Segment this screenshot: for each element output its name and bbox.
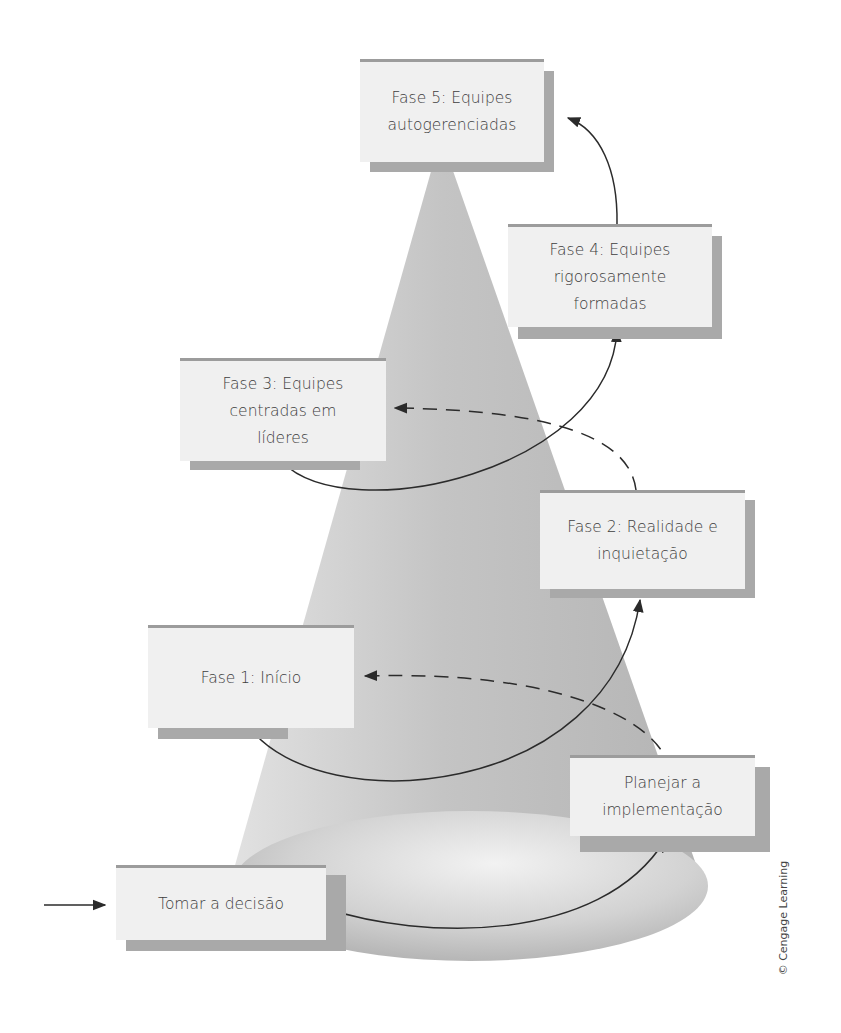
stage-plan: Planejar a implementação bbox=[570, 755, 770, 855]
copyright-credit: © Cengage Learning bbox=[777, 861, 790, 976]
stage-phase1: Fase 1: Início bbox=[148, 625, 358, 740]
stage-phase3-line-1: Fase 3: Equipes bbox=[223, 371, 344, 398]
stage-phase3-line-3: líderes bbox=[223, 425, 344, 452]
stage-phase4-line-1: Fase 4: Equipes bbox=[550, 237, 671, 264]
stage-phase5: Fase 5: Equipes autogerenciadas bbox=[360, 59, 560, 174]
stage-phase3: Fase 3: Equipes centradas em líderes bbox=[180, 358, 390, 470]
stage-plan-line-1: Planejar a bbox=[602, 770, 723, 797]
stage-phase2: Fase 2: Realidade e inquietação bbox=[540, 490, 755, 600]
stage-phase2-line-1: Fase 2: Realidade e bbox=[567, 514, 717, 541]
stage-phase4-line-3: formadas bbox=[550, 291, 671, 318]
team-phases-diagram: Tomar a decisão Planejar a implementação… bbox=[0, 0, 841, 1033]
stage-phase5-line-2: autogerenciadas bbox=[388, 112, 517, 139]
stage-phase4: Fase 4: Equipes rigorosamente formadas bbox=[508, 224, 723, 339]
stage-phase1-line-1: Fase 1: Início bbox=[201, 665, 302, 692]
stage-phase3-line-2: centradas em bbox=[223, 398, 344, 425]
stage-decide-line-1: Tomar a decisão bbox=[158, 891, 284, 918]
stage-phase5-line-1: Fase 5: Equipes bbox=[388, 85, 517, 112]
stage-phase2-line-2: inquietação bbox=[567, 541, 717, 568]
stage-phase4-line-2: rigorosamente bbox=[550, 264, 671, 291]
stage-plan-line-2: implementação bbox=[602, 797, 723, 824]
stage-decide: Tomar a decisão bbox=[116, 865, 356, 951]
